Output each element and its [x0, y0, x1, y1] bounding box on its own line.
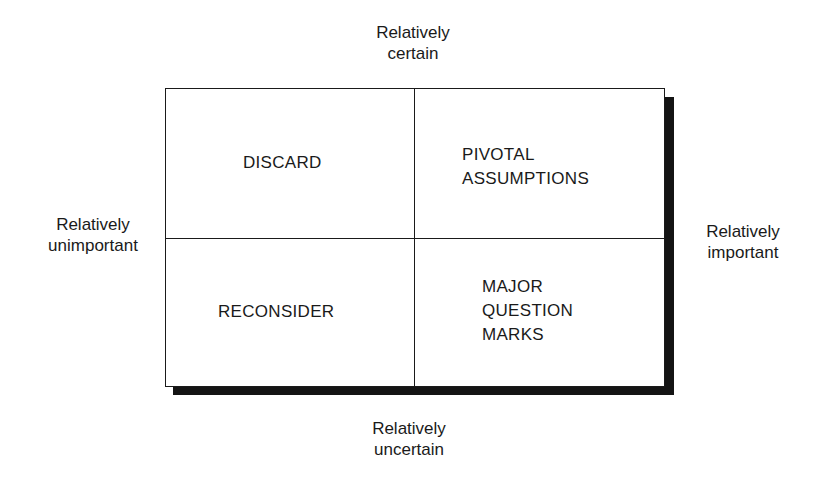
axis-label-left-line2: unimportant: [28, 235, 158, 256]
axis-label-bottom: Relatively uncertain: [359, 418, 459, 460]
axis-label-top-line1: Relatively: [363, 22, 463, 43]
axis-label-bottom-line2: uncertain: [359, 439, 459, 460]
quadrant-top-right-line2: ASSUMPTIONS: [462, 167, 589, 191]
axis-label-top-line2: certain: [363, 43, 463, 64]
axis-label-bottom-line1: Relatively: [359, 418, 459, 439]
quadrant-top-left-line1: DISCARD: [243, 151, 322, 175]
quadrant-top-left: DISCARD: [243, 151, 322, 175]
axis-label-right: Relatively important: [688, 221, 798, 263]
axis-label-right-line1: Relatively: [688, 221, 798, 242]
quadrant-bottom-right-line3: MARKS: [482, 323, 573, 347]
quadrant-bottom-right: MAJOR QUESTION MARKS: [482, 275, 573, 347]
quadrant-bottom-right-line2: QUESTION: [482, 299, 573, 323]
axis-label-left-line1: Relatively: [28, 214, 158, 235]
quadrant-top-right: PIVOTAL ASSUMPTIONS: [462, 143, 589, 191]
quadrant-bottom-left: RECONSIDER: [218, 300, 334, 324]
quadrant-top-right-line1: PIVOTAL: [462, 143, 589, 167]
quadrant-bottom-right-line1: MAJOR: [482, 275, 573, 299]
axis-label-right-line2: important: [688, 242, 798, 263]
axis-label-top: Relatively certain: [363, 22, 463, 64]
quadrant-grid: DISCARD PIVOTAL ASSUMPTIONS RECONSIDER M…: [165, 88, 665, 387]
axis-label-left: Relatively unimportant: [28, 214, 158, 256]
quadrant-bottom-left-line1: RECONSIDER: [218, 300, 334, 324]
horizontal-divider: [166, 238, 664, 239]
